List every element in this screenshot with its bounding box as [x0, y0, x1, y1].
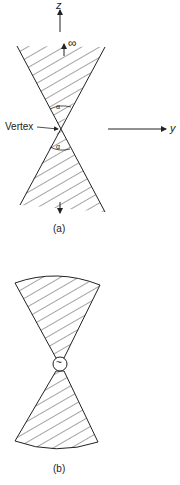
- vertex-pointer: [37, 127, 58, 129]
- caption-a: (a): [53, 224, 65, 234]
- upper-cone-b: [15, 276, 100, 358]
- figure-a: [17, 10, 166, 213]
- angle-label-top: α: [56, 103, 60, 110]
- y-axis-label: y: [170, 123, 176, 134]
- source-symbol: ~: [56, 358, 62, 368]
- infinity-label: ∞: [68, 37, 77, 49]
- angle-label-bottom: α: [56, 143, 60, 150]
- caption-b: (b): [53, 464, 65, 474]
- z-axis-label: z: [56, 0, 62, 11]
- vertex-label: Vertex: [5, 122, 33, 132]
- upper-cone: [17, 46, 105, 128]
- lower-cone-b: [15, 371, 98, 449]
- biconical-antenna-diagram: [0, 0, 180, 485]
- lower-cone: [20, 128, 105, 212]
